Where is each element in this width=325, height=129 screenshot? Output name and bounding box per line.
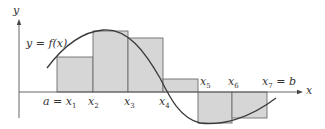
curve-label: y = f(x) xyxy=(26,38,67,49)
partition-label-x3: x3 xyxy=(124,96,135,110)
x-axis-arrow-icon xyxy=(297,90,303,94)
rectangle-5 xyxy=(198,92,232,123)
y-axis-arrow-icon xyxy=(17,19,21,25)
rectangle-1 xyxy=(57,57,93,92)
rectangle-4 xyxy=(163,79,198,92)
partition-label-x4: x4 xyxy=(159,96,170,110)
y-axis-label: y xyxy=(13,5,19,16)
partition-label-x1: a = x1 xyxy=(43,96,76,110)
x-axis-label: x xyxy=(306,85,312,96)
rectangle-2 xyxy=(93,31,128,92)
partition-label-x5: x5 xyxy=(200,76,211,90)
rectangle-3 xyxy=(128,38,163,92)
partition-label-x7: x7 = b xyxy=(262,76,296,90)
partition-label-x6: x6 xyxy=(228,76,239,90)
partition-label-x2: x2 xyxy=(88,96,99,110)
